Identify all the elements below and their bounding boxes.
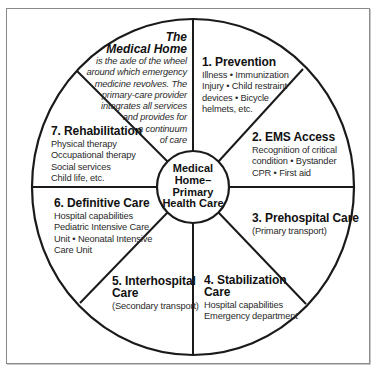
segment-body-line: Care Unit <box>54 245 152 256</box>
segment-body: Hospital capabilities Emergency departme… <box>204 300 298 323</box>
hub-label: Medical Home– Primary Health Care <box>157 163 229 210</box>
segment-body-line: Pediatric Intensive Care <box>54 222 152 233</box>
segment-body-line: Child life, etc. <box>51 173 142 184</box>
hub-line: Health Care <box>157 198 229 210</box>
medical-home-body-line: is the axle of the wheel <box>86 56 187 67</box>
segment-rehabilitation: 7. Rehabilitation Physical therapy Occup… <box>51 125 142 184</box>
medical-home-body-line: integrates all services <box>86 101 187 112</box>
segment-body-line: condition • Bystander <box>252 156 337 167</box>
segment-body-line: devices • Bicycle <box>202 93 289 104</box>
segment-stabilization-care: 4. Stabilization Care Hospital capabilit… <box>204 274 298 323</box>
segment-body-line: Emergency department <box>204 311 298 322</box>
segment-body-line: helmets, etc. <box>202 104 289 115</box>
segment-title: 6. Definitive Care <box>54 197 152 209</box>
segment-title: Care <box>112 287 199 299</box>
segment-body-line: Physical therapy <box>51 139 142 150</box>
segment-title: 2. EMS Access <box>252 131 337 143</box>
medical-home-body-line: and provides for <box>86 112 187 123</box>
segment-body-line: Illness • Immunization <box>202 70 289 81</box>
segment-definitive-care: 6. Definitive Care Hospital capabilities… <box>54 197 152 256</box>
segment-body-line: CPR • First aid <box>252 168 337 179</box>
segment-body-line: Unit • Neonatal Intensive <box>54 234 152 245</box>
segment-interhospital-care: 5. Interhospital Care (Secondary transpo… <box>112 275 199 312</box>
segment-title: Care <box>204 286 298 298</box>
hub-line: Home– <box>157 175 229 187</box>
segment-prehospital-care: 3. Prehospital Care (Primary transport) <box>252 212 359 237</box>
medical-home-body-line: primary-care provider <box>86 90 187 101</box>
segment-body: (Secondary transport) <box>112 301 199 312</box>
segment-body-line: (Primary transport) <box>252 226 359 237</box>
segment-prevention: 1. Prevention Illness • Immunization Inj… <box>202 56 289 115</box>
medical-home-body-line: around which emergency <box>86 67 187 78</box>
segment-body: Recognition of critical condition • Byst… <box>252 145 337 179</box>
segment-body-line: Hospital capabilities <box>204 300 298 311</box>
segment-ems-access: 2. EMS Access Recognition of critical co… <box>252 131 337 179</box>
segment-title: 3. Prehospital Care <box>252 212 359 224</box>
segment-body: Hospital capabilities Pediatric Intensiv… <box>54 211 152 256</box>
medical-home-body-line: medicine revolves. The <box>86 79 187 90</box>
segment-body-line: Social services <box>51 162 142 173</box>
segment-body-line: Injury • Child restraint <box>202 81 289 92</box>
medical-home-title-line: Medical Home <box>86 43 187 55</box>
segment-title: 1. Prevention <box>202 56 289 68</box>
segment-title: 7. Rehabilitation <box>51 125 142 137</box>
segment-body: Physical therapy Occupational therapy So… <box>51 139 142 184</box>
segment-body-line: Hospital capabilities <box>54 211 152 222</box>
segment-body-line: Recognition of critical <box>252 145 337 156</box>
segment-body-line: (Secondary transport) <box>112 301 199 312</box>
segment-body-line: Occupational therapy <box>51 150 142 161</box>
segment-body: (Primary transport) <box>252 226 359 237</box>
segment-body: Illness • Immunization Injury • Child re… <box>202 70 289 115</box>
